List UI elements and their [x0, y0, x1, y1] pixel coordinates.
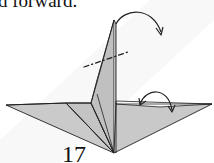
step-number: 17 [62, 142, 86, 163]
reverse-fold-arrow-icon [116, 12, 163, 35]
origami-diagram [0, 0, 214, 163]
right-wing [114, 103, 212, 153]
